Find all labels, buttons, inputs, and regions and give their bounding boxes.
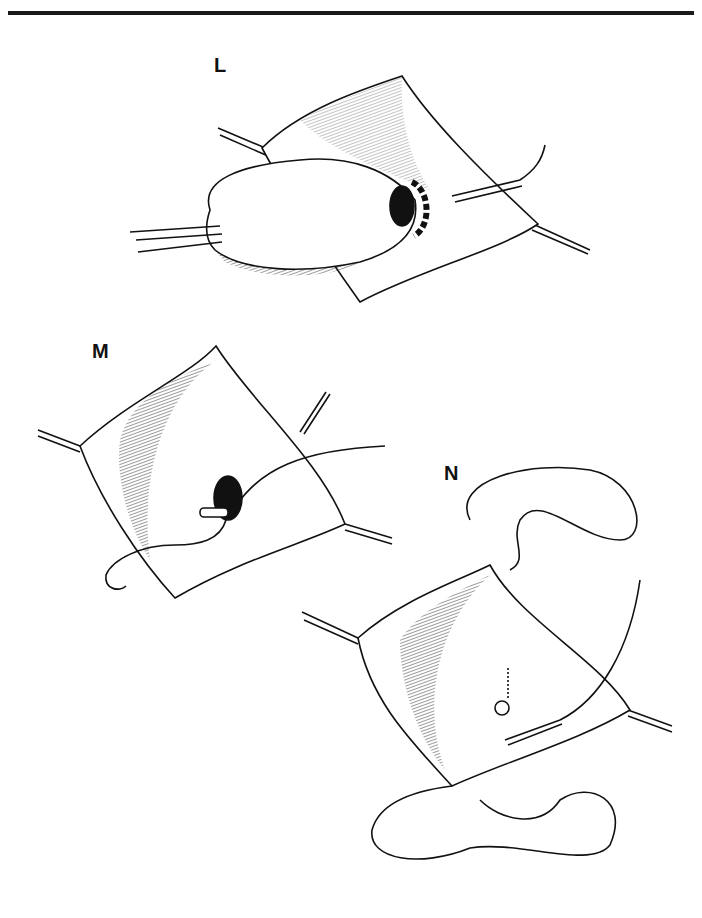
panel-l-drawing [130, 76, 590, 302]
panel-n-drawing [302, 467, 672, 859]
illustration [0, 0, 702, 918]
panel-m-drawing [38, 346, 392, 598]
